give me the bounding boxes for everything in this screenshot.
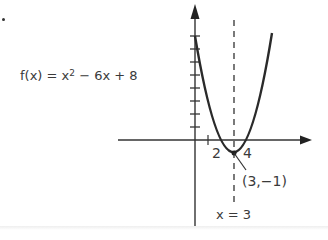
y-axis-arrow-icon	[191, 4, 200, 19]
tick-label-4: 4	[243, 145, 252, 161]
x-axis-arrow-icon	[300, 136, 312, 145]
axis-of-symmetry-label: x = 3	[216, 207, 251, 222]
page-edge	[0, 226, 328, 230]
vertex-label: (3,−1)	[242, 173, 287, 189]
graph-figure: f(x) = x2 − 6x + 8 2 4 (3,−1)	[0, 0, 328, 240]
tick-label-2: 2	[212, 145, 221, 161]
parabola-plot	[0, 0, 328, 240]
